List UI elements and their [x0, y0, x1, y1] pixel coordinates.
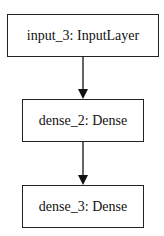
arrowhead-icon — [78, 175, 88, 185]
node-label: dense_2: Dense — [39, 113, 127, 129]
node-label: dense_3: Dense — [39, 199, 127, 215]
arrowhead-icon — [78, 89, 88, 99]
node-dense-3: dense_3: Dense — [22, 185, 144, 228]
node-dense-2: dense_2: Dense — [22, 99, 144, 142]
